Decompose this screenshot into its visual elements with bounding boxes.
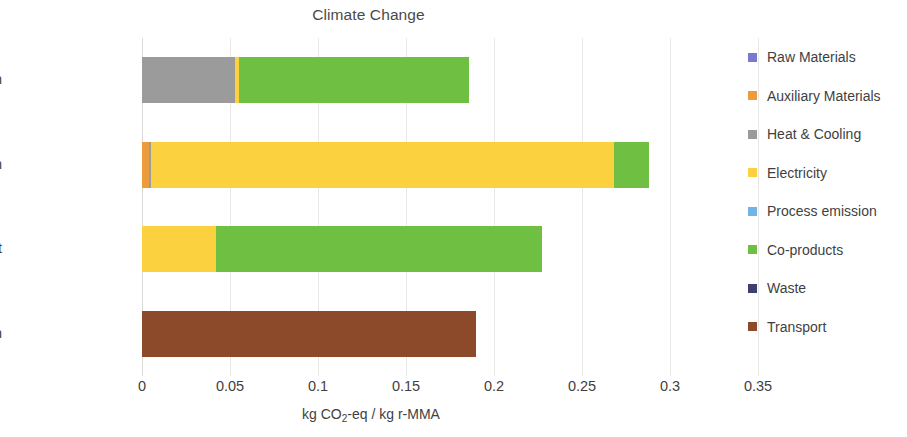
legend-label: Process emission [767, 203, 877, 219]
legend-item-transport[interactable]: Transport [748, 308, 907, 347]
bar-segment-auxiliary-materials[interactable] [142, 142, 149, 188]
climate-change-chart: Climate Change PurificationDepolymerizat… [0, 0, 907, 437]
x-tick-label: 0 [112, 378, 172, 394]
legend-label: Electricity [767, 165, 827, 181]
bar-segment-transport[interactable] [142, 311, 476, 357]
x-axis-title-subscript: 2 [342, 413, 348, 424]
category-label-pretreatment: Pretreatment [0, 240, 2, 256]
legend-item-auxiliary-materials[interactable]: Auxiliary Materials [748, 77, 907, 116]
bar-segment-electricity[interactable] [142, 226, 216, 272]
legend-item-waste[interactable]: Waste [748, 269, 907, 308]
legend-label: Waste [767, 280, 806, 296]
x-tick-label: 0.3 [640, 378, 700, 394]
x-axis-tick-labels: 00.050.10.150.20.250.30.35 [0, 376, 907, 404]
x-tick-label: 0.05 [200, 378, 260, 394]
legend-label: Heat & Cooling [767, 126, 861, 142]
legend-swatch-icon [748, 130, 757, 139]
legend-label: Co-products [767, 242, 843, 258]
x-axis-title-post: -eq / kg r-MMA [347, 406, 440, 422]
legend-swatch-icon [748, 53, 757, 62]
x-tick-label: 0.35 [728, 378, 788, 394]
legend-swatch-icon [748, 322, 757, 331]
legend-item-process-emission[interactable]: Process emission [748, 192, 907, 231]
category-label-depolymerization: Depolymerization [0, 156, 2, 172]
legend-label: Auxiliary Materials [767, 88, 881, 104]
category-row: Depolymerization [142, 123, 758, 208]
legend-label: Raw Materials [767, 49, 856, 65]
bar-segment-electricity[interactable] [151, 142, 614, 188]
chart-legend: Raw MaterialsAuxiliary MaterialsHeat & C… [748, 38, 907, 346]
bar-segment-co-products[interactable] [216, 226, 542, 272]
legend-label: Transport [767, 319, 826, 335]
x-tick-label: 0.1 [288, 378, 348, 394]
legend-swatch-icon [748, 245, 757, 254]
legend-swatch-icon [748, 284, 757, 293]
legend-item-raw-materials[interactable]: Raw Materials [748, 38, 907, 77]
category-row: Pretreatment [142, 207, 758, 292]
x-tick-label: 0.2 [464, 378, 524, 394]
stacked-bar-pretreatment[interactable] [142, 226, 542, 272]
category-label-collection: Collection [0, 325, 2, 341]
legend-item-co-products[interactable]: Co-products [748, 231, 907, 270]
bar-segment-heat-cooling[interactable] [142, 57, 235, 103]
stacked-bar-purification[interactable] [142, 57, 469, 103]
legend-swatch-icon [748, 91, 757, 100]
chart-title: Climate Change [0, 6, 737, 24]
plot-area: PurificationDepolymerizationPretreatment… [142, 38, 758, 376]
category-row: Purification [142, 38, 758, 123]
bar-segment-co-products[interactable] [239, 57, 470, 103]
category-row: Collection [142, 292, 758, 377]
stacked-bar-collection[interactable] [142, 311, 476, 357]
x-tick-label: 0.25 [552, 378, 612, 394]
x-axis-title: kg CO2-eq / kg r-MMA [0, 406, 742, 422]
legend-item-heat-cooling[interactable]: Heat & Cooling [748, 115, 907, 154]
legend-item-electricity[interactable]: Electricity [748, 154, 907, 193]
stacked-bar-depolymerization[interactable] [142, 142, 649, 188]
x-axis-title-pre: kg CO [302, 406, 342, 422]
legend-swatch-icon [748, 168, 757, 177]
legend-swatch-icon [748, 207, 757, 216]
category-label-purification: Purification [0, 71, 2, 87]
x-tick-label: 0.15 [376, 378, 436, 394]
bar-segment-co-products[interactable] [614, 142, 649, 188]
